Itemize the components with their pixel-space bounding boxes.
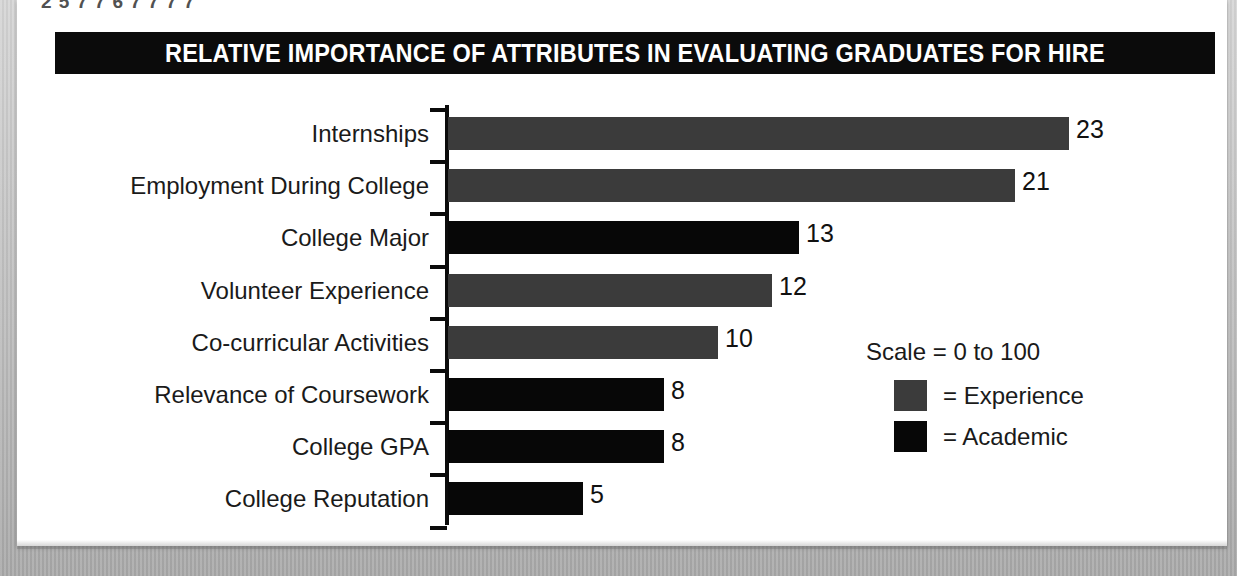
chart-bar-row: Volunteer Experience12 — [17, 265, 1227, 317]
bar-academic — [448, 378, 664, 411]
bar-category-label: College Reputation — [77, 485, 429, 513]
bar-experience — [448, 274, 772, 307]
bar-experience — [448, 326, 718, 359]
bar-value-label: 12 — [779, 272, 807, 301]
bar-category-label: College Major — [77, 224, 429, 252]
bar-category-label: Co-curricular Activities — [77, 329, 429, 357]
bar-value-label: 23 — [1076, 115, 1104, 144]
chart-bar-row: College Major13 — [17, 212, 1227, 264]
legend-label-academic: = Academic — [943, 423, 1068, 451]
bar-experience — [448, 169, 1015, 202]
legend-swatch-academic — [894, 421, 927, 452]
bar-value-label: 8 — [671, 428, 685, 457]
chart-plot-area: Internships23Employment During College21… — [17, 0, 1227, 546]
chart-bar-row: Employment During College21 — [17, 160, 1227, 212]
chart-bar-row: Internships23 — [17, 108, 1227, 160]
bar-category-label: Volunteer Experience — [77, 277, 429, 305]
legend-swatch-experience — [894, 380, 927, 411]
legend-item-experience: = Experience — [894, 380, 1166, 411]
bar-academic — [448, 221, 799, 254]
bar-value-label: 21 — [1022, 167, 1050, 196]
bar-category-label: College GPA — [77, 433, 429, 461]
page-bottom-shadow — [17, 540, 1227, 549]
chart-bar-row: College Reputation5 — [17, 473, 1227, 525]
bar-academic — [448, 482, 583, 515]
bar-value-label: 5 — [590, 480, 604, 509]
bar-academic — [448, 430, 664, 463]
chart-page: 2 5 7 7 6 7 7 7 7 RELATIVE IMPORTANCE OF… — [17, 0, 1227, 546]
legend-scale-note: Scale = 0 to 100 — [866, 338, 1166, 366]
scanned-page-background: 2 5 7 7 6 7 7 7 7 RELATIVE IMPORTANCE OF… — [0, 0, 1237, 576]
legend-label-experience: = Experience — [943, 382, 1084, 410]
bar-value-label: 10 — [725, 324, 753, 353]
bar-value-label: 8 — [671, 376, 685, 405]
bar-value-label: 13 — [806, 219, 834, 248]
y-axis-tick — [430, 526, 447, 530]
bar-experience — [448, 117, 1069, 150]
bar-category-label: Internships — [77, 120, 429, 148]
chart-legend: Scale = 0 to 100 = Experience = Academic — [866, 338, 1166, 462]
bar-category-label: Relevance of Coursework — [77, 381, 429, 409]
legend-item-academic: = Academic — [894, 421, 1166, 452]
bar-category-label: Employment During College — [77, 172, 429, 200]
